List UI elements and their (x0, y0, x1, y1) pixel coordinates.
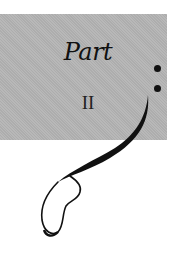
calligraphic-swash-icon (0, 0, 178, 256)
